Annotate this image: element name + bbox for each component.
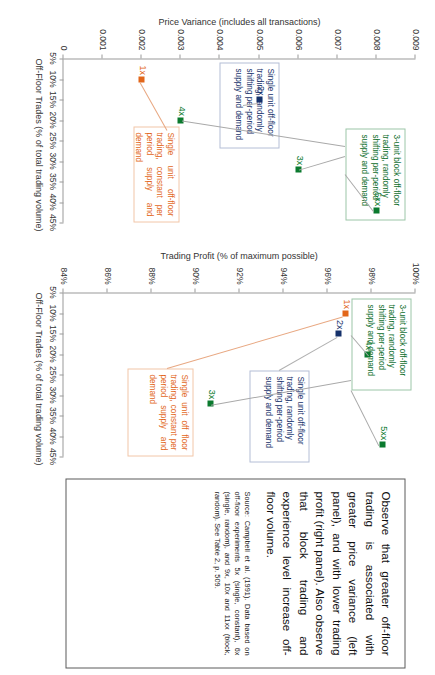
y-tick <box>238 288 239 292</box>
y-tick <box>218 54 219 58</box>
y-tick <box>62 54 63 58</box>
x-tick-label: 15% <box>47 88 57 110</box>
x-tick <box>59 140 63 141</box>
x-tick-label: 10% <box>47 302 57 324</box>
x-tick-label: 5% <box>47 47 57 69</box>
data-point-label-4x: 4x <box>176 100 186 116</box>
x-tick-label: 20% <box>47 109 57 131</box>
data-point-label-1x: 1x <box>341 293 351 309</box>
y-tick-label: 0.005 <box>254 6 264 50</box>
figure-canvas: 00.0010.0020.0030.0040.0050.0060.0070.00… <box>0 0 435 675</box>
x-tick <box>59 99 63 100</box>
data-point-2x <box>256 96 262 102</box>
chart-trading-profit: 84%86%88%90%92%94%96%98%100%5%10%15%20%2… <box>6 240 429 468</box>
data-point-label-1x: 1x <box>137 59 147 75</box>
y-tick-label: 90% <box>190 240 200 284</box>
x-tick <box>59 58 63 59</box>
figure-stage: 00.0010.0020.0030.0040.0050.0060.0070.00… <box>0 0 435 675</box>
y-axis-title: Price Variance (includes all transaction… <box>158 16 320 26</box>
data-point-label-2x: 2x <box>334 313 344 329</box>
y-tick-label: 0.009 <box>410 6 420 50</box>
leader-line <box>139 82 167 130</box>
data-point-2x <box>335 330 341 336</box>
y-tick <box>62 288 63 292</box>
annotation-tp-green: 3-unit block off-floor trading, randomly… <box>351 298 411 390</box>
x-tick <box>59 313 63 314</box>
y-tick <box>370 288 371 292</box>
annotation-pv-orange: Single unit off-floor trading, constant … <box>133 126 179 222</box>
x-tick <box>59 161 63 162</box>
y-tick-label: 0.004 <box>214 6 224 50</box>
data-point-label-5xx: 5xx <box>372 190 382 206</box>
y-tick-label: 100% <box>410 240 420 284</box>
y-tick-label: 0.007 <box>332 6 342 50</box>
y-tick-label: 88% <box>146 240 156 284</box>
y-tick <box>106 288 107 292</box>
data-point-1x <box>138 76 144 82</box>
y-tick-label: 0.006 <box>293 6 303 50</box>
y-tick-label: 0.003 <box>175 6 185 50</box>
x-tick <box>59 181 63 182</box>
x-tick-label: 45% <box>47 445 57 467</box>
y-tick <box>150 288 151 292</box>
x-tick-label: 35% <box>47 404 57 426</box>
data-point-label-3x: 3x <box>294 149 304 165</box>
y-tick-label: 0 <box>58 6 68 50</box>
y-tick-label: 96% <box>322 240 332 284</box>
y-tick <box>179 54 180 58</box>
y-tick <box>414 54 415 58</box>
y-tick-label: 94% <box>278 240 288 284</box>
y-tick-label: 98% <box>366 240 376 284</box>
x-tick <box>59 374 63 375</box>
annotation-tp-orange: Single unit off floor trading, constant … <box>127 368 193 456</box>
x-tick-label: 10% <box>47 68 57 90</box>
data-point-5xx <box>379 441 385 447</box>
x-tick-label: 30% <box>47 150 57 172</box>
x-tick <box>59 395 63 396</box>
y-tick <box>326 288 327 292</box>
y-tick <box>282 288 283 292</box>
x-tick <box>59 354 63 355</box>
y-tick-label: 0.008 <box>371 6 381 50</box>
conclusion-box: Observe that greater off-floor trading i… <box>65 478 405 668</box>
x-tick <box>59 292 63 293</box>
leader-line <box>166 316 342 368</box>
y-tick <box>194 288 195 292</box>
x-tick <box>59 222 63 223</box>
data-point-label-5xx: 5xx <box>378 424 388 440</box>
y-tick-label: 0.001 <box>97 6 107 50</box>
x-tick <box>59 456 63 457</box>
x-axis-title: Off-Floor Trades (% of total trading vol… <box>33 58 43 222</box>
x-tick-label: 40% <box>47 425 57 447</box>
leader-line <box>278 337 336 371</box>
data-point-label-4x: 4x <box>363 334 373 350</box>
y-axis-title: Trading Profit (% of maximum possible) <box>161 250 318 260</box>
x-tick-label: 5% <box>47 281 57 303</box>
leader-line <box>298 156 345 171</box>
y-tick-label: 84% <box>58 240 68 284</box>
y-tick <box>297 54 298 58</box>
leader-line <box>350 390 379 446</box>
x-tick-label: 30% <box>47 384 57 406</box>
y-tick <box>414 288 415 292</box>
x-tick <box>59 120 63 121</box>
x-tick <box>59 436 63 437</box>
y-tick-label: 86% <box>102 240 112 284</box>
x-tick-label: 15% <box>47 322 57 344</box>
x-tick-label: 35% <box>47 170 57 192</box>
x-tick <box>59 79 63 80</box>
chart-price-variance: 00.0010.0020.0030.0040.0050.0060.0070.00… <box>6 6 429 234</box>
conclusion-source: Source: Campbell et al. (1991). Data bas… <box>211 491 251 655</box>
x-tick-label: 25% <box>47 363 57 385</box>
y-tick-label: 92% <box>234 240 244 284</box>
data-point-label-2x: 2x <box>255 79 265 95</box>
x-tick-label: 45% <box>47 211 57 233</box>
y-axis-line <box>63 58 415 59</box>
data-point-label-3x: 3x <box>206 383 216 399</box>
y-tick <box>336 54 337 58</box>
x-tick <box>59 202 63 203</box>
x-axis-title: Off-Floor Trades (% of total trading vol… <box>33 292 43 456</box>
y-tick <box>101 54 102 58</box>
x-tick-label: 25% <box>47 129 57 151</box>
x-tick <box>59 415 63 416</box>
